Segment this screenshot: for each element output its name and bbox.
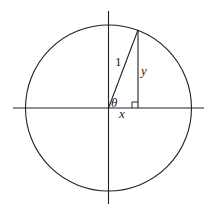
right-angle-marker	[132, 102, 138, 108]
adjacent-label: x	[118, 106, 125, 121]
unit-circle-diagram: 1 y x θ	[0, 0, 212, 216]
opposite-label: y	[139, 63, 147, 78]
hypotenuse-label: 1	[115, 54, 122, 69]
angle-label: θ	[111, 95, 118, 110]
